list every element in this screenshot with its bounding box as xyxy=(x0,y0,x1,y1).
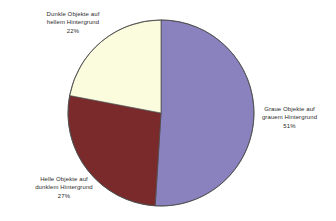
pie-label-graue-objekte-percent: 51% xyxy=(243,122,336,130)
pie-label-helle-objekte: Helle Objekte auf dunklem Hintergrund 27… xyxy=(5,175,123,200)
pie-label-dunkle-objekte-line2: hellem Hintergrund xyxy=(14,18,132,26)
pie-slice-graue-objekte[interactable] xyxy=(155,20,254,206)
pie-label-graue-objekte-line1: Graue Objekte auf xyxy=(243,105,336,113)
pie-label-graue-objekte-line2: grauem Hintergrund xyxy=(243,113,336,121)
pie-chart-figure: Dunkle Objekte auf hellem Hintergrund 22… xyxy=(0,0,336,221)
pie-label-helle-objekte-line2: dunklem Hintergrund xyxy=(5,183,123,191)
pie-label-helle-objekte-percent: 27% xyxy=(5,192,123,200)
pie-label-graue-objekte: Graue Objekte auf grauem Hintergrund 51% xyxy=(243,105,336,130)
pie-label-dunkle-objekte: Dunkle Objekte auf hellem Hintergrund 22… xyxy=(14,10,132,35)
pie-label-dunkle-objekte-line1: Dunkle Objekte auf xyxy=(14,10,132,18)
pie-label-dunkle-objekte-percent: 22% xyxy=(14,27,132,35)
pie-label-helle-objekte-line1: Helle Objekte auf xyxy=(5,175,123,183)
